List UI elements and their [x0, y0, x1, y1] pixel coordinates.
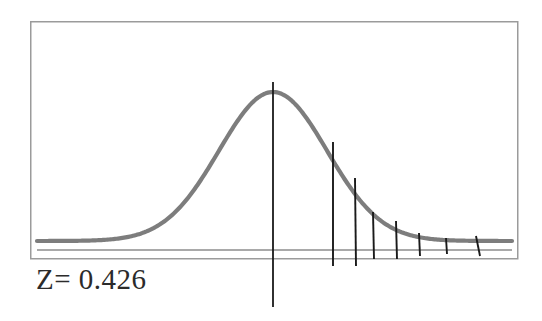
figure-frame — [31, 22, 518, 259]
tick-2-line — [355, 178, 356, 266]
figure-screenshot: Z= 0.426 — [0, 0, 542, 321]
tick-3-line — [373, 212, 374, 259]
z-score-label: Z= 0.426 — [36, 262, 147, 296]
tick-4-line — [396, 221, 397, 259]
tick-6-line — [446, 238, 447, 254]
tick-5-line — [419, 233, 420, 256]
